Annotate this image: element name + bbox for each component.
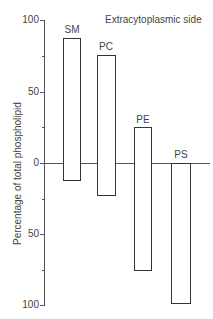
tick-75-bottom xyxy=(42,270,45,271)
bar-ps xyxy=(171,163,191,304)
bar-sm xyxy=(63,38,81,181)
bar-pc xyxy=(97,55,116,196)
tick-label: 50 xyxy=(9,86,39,97)
y-axis-label: Percentage of total phospholipid xyxy=(12,102,23,245)
tick-100-bottom xyxy=(40,305,45,306)
bar-label-sm: SM xyxy=(57,24,87,35)
tick-label: 100 xyxy=(9,14,39,25)
tick-100-top xyxy=(40,20,45,21)
annotation: Extracytoplasmic side xyxy=(105,14,202,25)
tick-75-top xyxy=(42,56,45,57)
bar-label-pe: PE xyxy=(128,114,158,125)
tick-25-bottom xyxy=(42,199,45,200)
bar-pe xyxy=(134,127,152,271)
tick-25-top xyxy=(42,127,45,128)
tick-label: 100 xyxy=(9,299,39,310)
tick-50-top xyxy=(40,92,45,93)
tick-0 xyxy=(40,163,45,164)
bar-label-ps: PS xyxy=(166,149,196,160)
bar-label-pc: PC xyxy=(91,41,121,52)
tick-50-bottom xyxy=(40,234,45,235)
